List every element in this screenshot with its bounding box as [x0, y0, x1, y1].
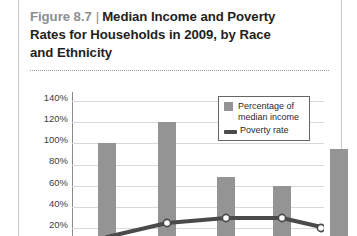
legend-swatch-square-icon [224, 102, 233, 111]
figure-title-line-1: Figure 8.7|Median Income and Poverty [30, 8, 330, 26]
figure-title-line-3: and Ethnicity [30, 44, 330, 62]
figure-number: Figure 8.7 [30, 9, 92, 24]
y-axis-labels: 140% 120% 100% 80% 60% 40% 20% [30, 88, 68, 236]
y-tick-20: 20% [30, 220, 68, 230]
page-left-rule [18, 0, 19, 236]
chart-legend: Percentage ofmedian income Poverty rate [218, 96, 310, 141]
figure-title-block: Figure 8.7|Median Income and Poverty Rat… [30, 8, 330, 62]
plot-area: Percentage ofmedian income Poverty rate [72, 92, 324, 236]
legend-label-median-income: Percentage ofmedian income [238, 101, 299, 122]
legend-label-median-income-line1: Percentage of [238, 101, 294, 111]
poverty-rate-marker-4 [278, 214, 285, 221]
y-tick-140: 140% [30, 93, 68, 103]
y-tick-100: 100% [30, 135, 68, 145]
y-tick-60: 60% [30, 178, 68, 188]
y-tick-120: 120% [30, 114, 68, 124]
figure-title-separator: | [92, 9, 102, 24]
y-tick-80: 80% [30, 156, 68, 166]
figure-title-line-2: Rates for Households in 2009, by Race [30, 26, 330, 44]
poverty-rate-marker-5 [317, 224, 324, 231]
poverty-rate-polyline [107, 218, 324, 236]
poverty-rate-marker-3 [222, 214, 229, 221]
y-tick-40: 40% [30, 199, 68, 209]
figure-page: Figure 8.7|Median Income and Poverty Rat… [0, 0, 357, 236]
legend-label-poverty-rate: Poverty rate [240, 125, 289, 136]
bar-series-5 [330, 149, 348, 236]
legend-label-median-income-line2: median income [238, 112, 299, 122]
chart-figure: 140% 120% 100% 80% 60% 40% 20% [30, 88, 330, 236]
legend-item-median-income: Percentage ofmedian income [224, 101, 304, 122]
legend-swatch-line-icon [224, 130, 237, 134]
legend-item-poverty-rate: Poverty rate [224, 125, 304, 136]
title-divider [30, 70, 330, 71]
poverty-rate-marker-2 [163, 219, 170, 226]
figure-title-text-1: Median Income and Poverty [102, 9, 275, 24]
